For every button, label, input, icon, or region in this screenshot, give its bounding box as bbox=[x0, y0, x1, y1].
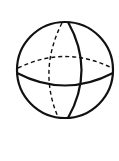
sphere-outline bbox=[17, 22, 113, 118]
back-equator-arc bbox=[18, 57, 112, 69]
sphere-diagram bbox=[0, 0, 119, 161]
front-meridian-arc bbox=[68, 22, 82, 118]
front-equator-arc bbox=[17, 73, 113, 86]
back-meridian-arc bbox=[49, 23, 62, 117]
